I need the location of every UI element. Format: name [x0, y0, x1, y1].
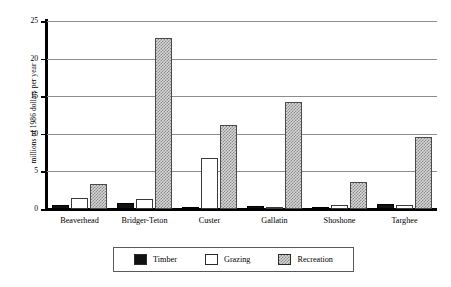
x-axis-label-shoshone: Shoshone: [307, 216, 372, 226]
y-axis-tick-label: 0: [18, 205, 38, 213]
x-axis-label-beaverhead: Beaverhead: [47, 216, 112, 226]
legend-label-timber: Timber: [153, 255, 177, 265]
bar-shoshone-grazing: [331, 205, 348, 210]
bar-beaverhead-timber: [52, 205, 69, 210]
bar-bridger-teton-recreation: [155, 38, 172, 209]
y-axis-tick-label: 5: [18, 167, 38, 175]
bar-bridger-teton-grazing: [136, 199, 153, 209]
bar-gallatin-grazing: [266, 207, 283, 209]
y-axis-tick-mark: [41, 209, 46, 211]
bar-custer-timber: [182, 207, 199, 209]
bar-shoshone-recreation: [350, 182, 367, 209]
bar-gallatin-timber: [247, 206, 264, 209]
legend-item-timber: Timber: [134, 254, 177, 265]
gridline: [47, 96, 437, 97]
gridline: [47, 134, 437, 135]
bar-targhee-timber: [377, 204, 394, 209]
bar-custer-recreation: [220, 125, 237, 209]
y-axis-tick-label: 10: [18, 130, 38, 138]
bar-custer-grazing: [201, 158, 218, 209]
bar-targhee-recreation: [415, 137, 432, 209]
gridline: [47, 59, 437, 60]
x-axis-label-gallatin: Gallatin: [242, 216, 307, 226]
x-axis-label-custer: Custer: [177, 216, 242, 226]
bar-beaverhead-grazing: [71, 198, 88, 209]
y-axis-tick-mark: [41, 134, 46, 136]
plot-area: [47, 21, 437, 209]
bar-targhee-grazing: [396, 205, 413, 209]
legend-swatch-grazing: [205, 254, 218, 265]
y-axis-tick-label: 25: [18, 17, 38, 25]
bar-gallatin-recreation: [285, 102, 302, 209]
x-axis-label-targhee: Targhee: [372, 216, 437, 226]
legend-item-grazing: Grazing: [205, 254, 250, 265]
gridline: [47, 21, 437, 22]
legend-item-recreation: Recreation: [278, 254, 332, 265]
y-axis-tick-label: 15: [18, 92, 38, 100]
y-axis-tick-mark: [41, 171, 46, 173]
y-axis-tick-mark: [41, 59, 46, 61]
y-axis-tick-mark: [41, 21, 46, 23]
legend-label-recreation: Recreation: [297, 255, 332, 265]
legend-swatch-recreation: [278, 254, 291, 265]
legend-swatch-timber: [134, 254, 147, 265]
bar-shoshone-timber: [312, 207, 329, 209]
chart-legend: TimberGrazingRecreation: [113, 247, 354, 272]
bar-chart-figure: millions of 1986 dollars per year 051015…: [0, 0, 451, 287]
bar-beaverhead-recreation: [90, 184, 107, 209]
x-axis-label-bridger-teton: Bridger-Teton: [112, 216, 177, 226]
gridline: [47, 171, 437, 172]
y-axis-tick-label: 20: [18, 55, 38, 63]
legend-label-grazing: Grazing: [224, 255, 250, 265]
y-axis-tick-mark: [41, 96, 46, 98]
bar-bridger-teton-timber: [117, 203, 134, 209]
